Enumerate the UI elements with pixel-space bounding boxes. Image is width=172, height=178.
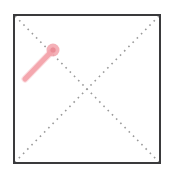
drag-endpoint-handle[interactable] (50, 47, 55, 52)
geometry-canvas (0, 0, 172, 178)
screenshot-stage (0, 0, 172, 178)
